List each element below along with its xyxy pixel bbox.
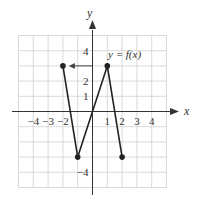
x-tick-label: 1 — [105, 115, 111, 127]
graph-canvas: x y −4−3−21234 421−4 y = f(x) — [0, 0, 200, 199]
x-tick-label: 2 — [119, 115, 125, 127]
x-tick-label: −3 — [42, 115, 54, 127]
y-tick-label: 4 — [83, 45, 89, 57]
arrowhead-icon — [69, 63, 75, 69]
x-tick-label: 4 — [149, 115, 155, 127]
x-tick-label: 3 — [134, 115, 140, 127]
y-axis-arrow-icon — [89, 20, 96, 29]
y-tick-label: −4 — [77, 166, 89, 178]
data-point — [105, 63, 111, 69]
x-tick-label: −4 — [27, 115, 39, 127]
data-point — [119, 154, 125, 160]
y-tick-label: 2 — [83, 75, 89, 87]
x-axis-arrow-icon — [170, 108, 179, 115]
data-point — [75, 154, 81, 160]
data-point — [60, 63, 66, 69]
y-axis-label: y — [86, 6, 93, 20]
x-axis-label: x — [183, 104, 190, 118]
function-label: y = f(x) — [107, 48, 141, 61]
x-tick-label: −2 — [57, 115, 69, 127]
arrow-annotation — [69, 63, 93, 69]
y-tick-label: 1 — [83, 90, 89, 102]
y-axis — [89, 20, 96, 195]
